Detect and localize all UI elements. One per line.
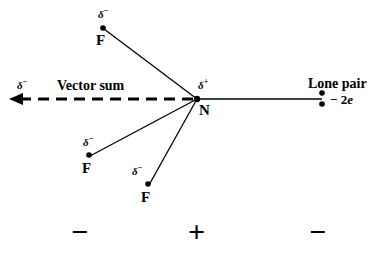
vector-sum-label: Vector sum [57,79,124,93]
fluorine-top-partial-charge-label: δ− [98,9,108,20]
fluorine-lower-left-partial-charge-label: δ− [83,137,93,148]
fluorine-bottom-partial-charge-label: δ− [132,166,142,177]
fluorine-top-symbol-label: F [96,33,105,48]
lone-pair-label: Lone pair [308,77,367,91]
lone-pair-electron-dot-top [319,90,325,96]
atom-dot-fluorine-top [100,25,106,31]
atom-dot-fluorine-bottom [145,181,151,187]
polarity-symbol-right: − [309,217,326,247]
lone-pair-electron-dot-bottom [319,101,325,107]
nitrogen-symbol-label: N [199,103,210,118]
atom-dot-fluorine-lower-left [86,152,92,158]
vector-sum-partial-charge-label: δ− [17,80,27,91]
fluorine-bottom-symbol-label: F [141,190,150,205]
lone-pair-charge-label: − 2e [330,93,353,106]
vector-sum-arrowhead [9,93,23,105]
molecule-dipole-figure: δ+ N δ− F δ− F δ− F δ− Vector sum Lone p… [0,0,386,257]
nitrogen-partial-charge-label: δ+ [198,80,208,91]
polarity-symbol-left: − [71,217,88,247]
fluorine-lower-left-symbol-label: F [82,161,91,176]
polarity-symbol-center: + [188,217,205,247]
